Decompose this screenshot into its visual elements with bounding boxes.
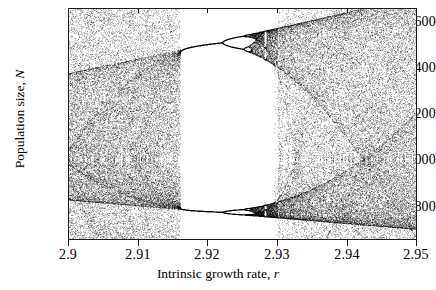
x-tick-mark-2.92 (207, 240, 208, 246)
x-tick-mark-2.90 (68, 240, 69, 246)
x-tick-label-2.95: 2.95 (386, 248, 436, 262)
x-tick-mark-2.94 (347, 240, 348, 246)
x-tick-label-2.92: 2.92 (177, 248, 237, 262)
x-tick-label-2.93: 2.93 (247, 248, 307, 262)
x-tick-label-2.90: 2.9 (38, 248, 98, 262)
y-axis-label: Population size, N (11, 3, 29, 235)
bifurcation-scatter-canvas (69, 9, 416, 239)
y-axis-label-text: Population size, N (12, 70, 27, 169)
x-tick-mark-top-2.93 (277, 8, 278, 13)
x-tick-mark-top-2.92 (207, 8, 208, 13)
x-tick-label-2.94: 2.94 (317, 248, 377, 262)
x-tick-mark-2.91 (138, 240, 139, 246)
plot-area (68, 8, 417, 240)
x-tick-mark-2.95 (416, 240, 417, 246)
x-axis-label: Intrinsic growth rate, r (0, 266, 436, 281)
bifurcation-diagram-figure: 1600 1400 1200 1000 800 2.9 2.91 2.92 2.… (0, 0, 436, 290)
x-tick-mark-2.93 (277, 240, 278, 246)
x-tick-label-2.91: 2.91 (108, 248, 168, 262)
y-axis-label-wrapper: Population size, N (11, 3, 29, 235)
x-axis-label-text: Intrinsic growth rate, r (157, 266, 279, 281)
x-tick-mark-top-2.91 (138, 8, 139, 13)
x-tick-mark-top-2.94 (347, 8, 348, 13)
